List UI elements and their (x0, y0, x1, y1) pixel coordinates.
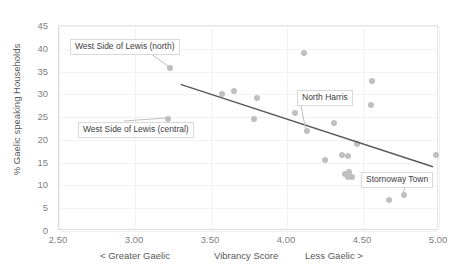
x-axis-tick-labels: 2.503.003.504.004.505.00 (0, 0, 460, 270)
x-tick-label: 3.00 (104, 234, 164, 245)
scatter-chart: 051015202530354045 2.503.003.504.004.505… (0, 0, 460, 270)
y-axis-title: % Gaelic speaking Households (11, 10, 22, 210)
x-tick-label: 5.00 (408, 234, 460, 245)
x-tick-label: 4.50 (332, 234, 392, 245)
x-axis-note-greater-gaelic: < Greater Gaelic (100, 250, 170, 261)
annotation-north-harris: North Harris (297, 90, 353, 106)
x-axis-note-less-gaelic: Less Gaelic > (305, 250, 363, 261)
x-tick-label: 3.50 (180, 234, 240, 245)
x-tick-label: 2.50 (28, 234, 88, 245)
annotation-west-side-of-lewis-central: West Side of Lewis (central) (78, 122, 194, 138)
x-axis-title: Vibrancy Score (214, 250, 278, 261)
x-tick-label: 4.00 (256, 234, 316, 245)
annotation-stornoway-town: Stornoway Town (361, 172, 433, 188)
annotation-west-side-of-lewis-north: West Side of Lewis (north) (70, 39, 180, 55)
